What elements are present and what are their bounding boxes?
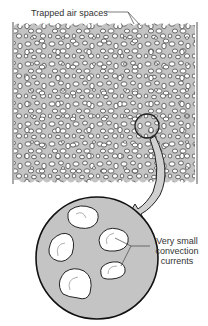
convection-label-line-1: Very small xyxy=(150,236,204,246)
convection-label-line-3: currents xyxy=(150,256,204,266)
magnified-air-bubble xyxy=(59,269,91,299)
magnified-air-bubble xyxy=(99,228,128,251)
convection-currents-label: Very small convection currents xyxy=(150,236,204,266)
magnified-view xyxy=(36,197,158,319)
magnified-air-bubble xyxy=(68,206,98,228)
insulation-cross-section xyxy=(13,20,197,186)
trapped-air-spaces-label: Trapped air spaces xyxy=(31,8,108,18)
convection-label-line-2: convection xyxy=(150,246,204,256)
insulation-diagram xyxy=(0,0,208,326)
